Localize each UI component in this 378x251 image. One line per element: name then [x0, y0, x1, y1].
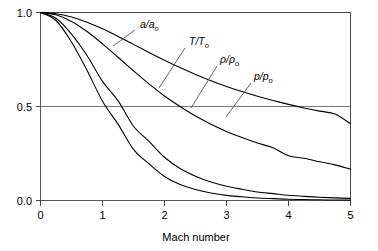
curve-label-a-over-a0-main: a/a [140, 18, 155, 30]
x-tick-label-5: 5 [347, 209, 353, 221]
x-tick-label-1: 1 [99, 209, 105, 221]
isentropic-flow-chart: 1.0 0.5 0.0 0 1 2 3 4 5 Mach number [0, 0, 378, 251]
chart-figure: 1.0 0.5 0.0 0 1 2 3 4 5 Mach number [0, 0, 378, 251]
x-tick-label-3: 3 [223, 209, 229, 221]
curve-label-rho-over-rho0-subscript: o [235, 59, 239, 68]
curve-label-p-over-p0-main: p/p [253, 70, 269, 82]
x-tick-label-2: 2 [161, 209, 167, 221]
curve-label-T-over-T0-subscript: o [205, 41, 209, 50]
curve-label-p-over-p0-subscript: o [269, 76, 273, 85]
curve-label-a-over-a0-subscript: o [155, 24, 159, 33]
y-tick-label-0_5: 0.5 [17, 101, 32, 113]
y-tick-label-0_0: 0.0 [17, 195, 32, 207]
x-tick-label-4: 4 [285, 209, 291, 221]
x-axis-title: Mach number [162, 231, 230, 243]
curve-label-T-over-T0-main: T/T [189, 35, 206, 47]
x-tick-label-0: 0 [37, 209, 43, 221]
curve-label-rho-over-rho0-main: ρ/ρ [219, 53, 235, 65]
y-tick-label-1_0: 1.0 [17, 7, 32, 19]
